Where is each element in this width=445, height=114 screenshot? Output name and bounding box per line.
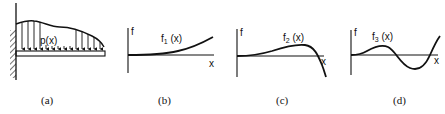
caption-d: (d) xyxy=(393,94,406,107)
wall-hatching xyxy=(10,30,16,78)
y-axis-label: f xyxy=(240,27,243,38)
curve-f2 xyxy=(237,45,326,77)
x-axis-label: x xyxy=(209,58,214,69)
load-label: p(x) xyxy=(40,35,57,46)
panel-b: f x f1 (x) (b) xyxy=(128,26,214,107)
panel-d: f x f3 (x) (d) xyxy=(351,27,440,107)
panel-a: p(x) (a) xyxy=(10,3,105,107)
caption-b: (b) xyxy=(158,94,171,107)
y-axis-label: f xyxy=(354,27,357,38)
beam xyxy=(16,51,105,56)
caption-c: (c) xyxy=(276,94,289,107)
panel-c: f x f2 (x) (c) xyxy=(237,27,326,107)
x-axis-label: x xyxy=(434,55,439,66)
curve-label: f3 (x) xyxy=(372,31,393,43)
y-axis-label: f xyxy=(131,26,134,37)
caption-a: (a) xyxy=(41,94,54,107)
load-curve xyxy=(16,21,104,47)
curve-f3 xyxy=(351,36,440,69)
load-arrows xyxy=(22,21,100,49)
curve-label: f1 (x) xyxy=(161,33,182,45)
curve-label: f2 (x) xyxy=(283,32,304,44)
x-axis-label: x xyxy=(321,56,326,67)
figure-canvas: p(x) (a) f x f1 (x) (b) f x f2 (x) (c) f… xyxy=(0,0,445,114)
